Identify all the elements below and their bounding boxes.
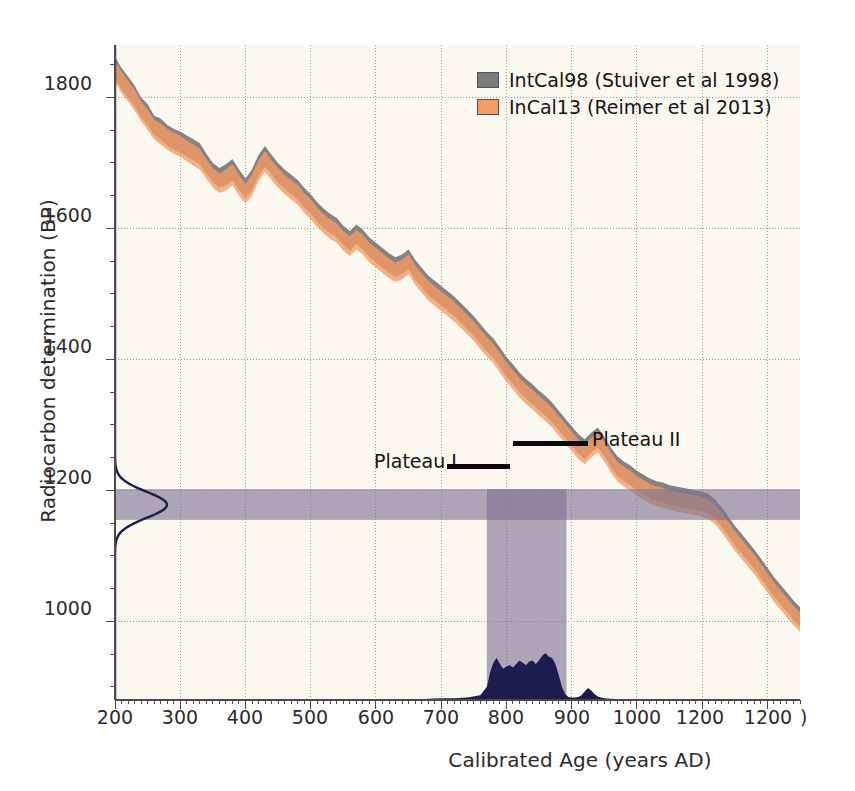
y-tick-label-1800: 1800 (22, 72, 92, 94)
radiocarbon-calibration-figure: Radiocarbon determination (BP) Calibrate… (0, 0, 855, 791)
y-tick-label-1000: 1000 (22, 597, 92, 619)
y-tick-label-1400: 1400 (22, 335, 92, 357)
plateau-two-bar (513, 441, 588, 446)
y-axis-title: Radiocarbon determination (BP) (36, 51, 60, 671)
legend-label-intcal13: InCal13 (Reimer et al 2013) (509, 96, 772, 118)
plateau-two-label: Plateau II (592, 428, 680, 450)
chart-legend: IntCal98 (Stuiver et al 1998) InCal13 (R… (477, 68, 779, 122)
legend-swatch-intcal13 (477, 99, 499, 115)
plateau-one-bar (447, 464, 510, 469)
plateau-one-label: Plateau I (374, 450, 457, 472)
legend-swatch-intcal98 (477, 72, 499, 88)
x-tick-label-1200: 1200 (728, 706, 808, 728)
legend-item-intcal13: InCal13 (Reimer et al 2013) (477, 95, 779, 119)
x-axis-title: Calibrated Age (years AD) (370, 748, 790, 772)
x-axis-trailing-glyph: ) (800, 706, 807, 728)
legend-item-intcal98: IntCal98 (Stuiver et al 1998) (477, 68, 779, 92)
y-tick-label-1200: 1200 (22, 466, 92, 488)
legend-label-intcal98: IntCal98 (Stuiver et al 1998) (509, 69, 779, 91)
y-tick-label-1600: 1600 (22, 204, 92, 226)
